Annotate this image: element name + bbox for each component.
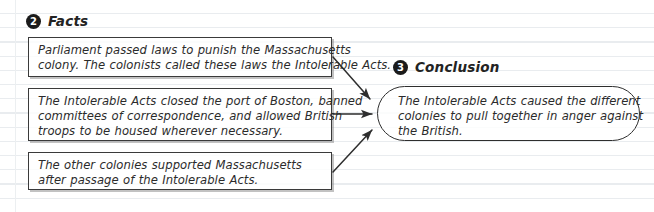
conclusion-box: The Intolerable Acts caused the differen… [377, 86, 640, 141]
fact-1-line-2: colony. The colonists called these laws … [38, 58, 323, 73]
fact-2-line-2: committees of correspondence, and allowe… [38, 109, 323, 124]
conclusion-heading: 3 Conclusion [393, 59, 500, 75]
fact-2-line-1: The Intolerable Acts closed the port of … [38, 94, 323, 109]
facts-heading: 2 Facts [26, 13, 88, 29]
facts-heading-label: Facts [48, 13, 88, 29]
fact-3-line-2: after passage of the Intolerable Acts. [38, 173, 323, 188]
fact-2-line-3: troops to be housed wherever necessary. [38, 124, 323, 139]
conclusion-line-2: colonies to pull together in anger again… [398, 109, 621, 124]
fact-box-1: Parliament passed laws to punish the Mas… [28, 37, 332, 77]
fact-box-3-text: The other colonies supported Massachuset… [38, 158, 323, 188]
arrow-fact-3-to-conclusion [333, 130, 372, 172]
conclusion-heading-label: Conclusion [415, 59, 500, 75]
conclusion-line-3: the British. [398, 124, 621, 139]
conclusion-line-1: The Intolerable Acts caused the differen… [398, 94, 621, 109]
fact-1-line-1: Parliament passed laws to punish the Mas… [38, 43, 323, 58]
fact-box-2-text: The Intolerable Acts closed the port of … [38, 94, 323, 140]
facts-number-badge: 2 [26, 14, 41, 29]
fact-3-line-1: The other colonies supported Massachuset… [38, 158, 323, 173]
fact-box-3: The other colonies supported Massachuset… [28, 152, 332, 190]
fact-box-1-text: Parliament passed laws to punish the Mas… [38, 43, 323, 73]
margin-rule-line [15, 0, 16, 212]
fact-box-2: The Intolerable Acts closed the port of … [28, 88, 332, 141]
conclusion-number-badge: 3 [393, 60, 408, 75]
conclusion-text: The Intolerable Acts caused the differen… [398, 94, 621, 140]
graphic-organizer-page: 2 Facts 3 Conclusion Parliament passed l… [0, 0, 654, 212]
